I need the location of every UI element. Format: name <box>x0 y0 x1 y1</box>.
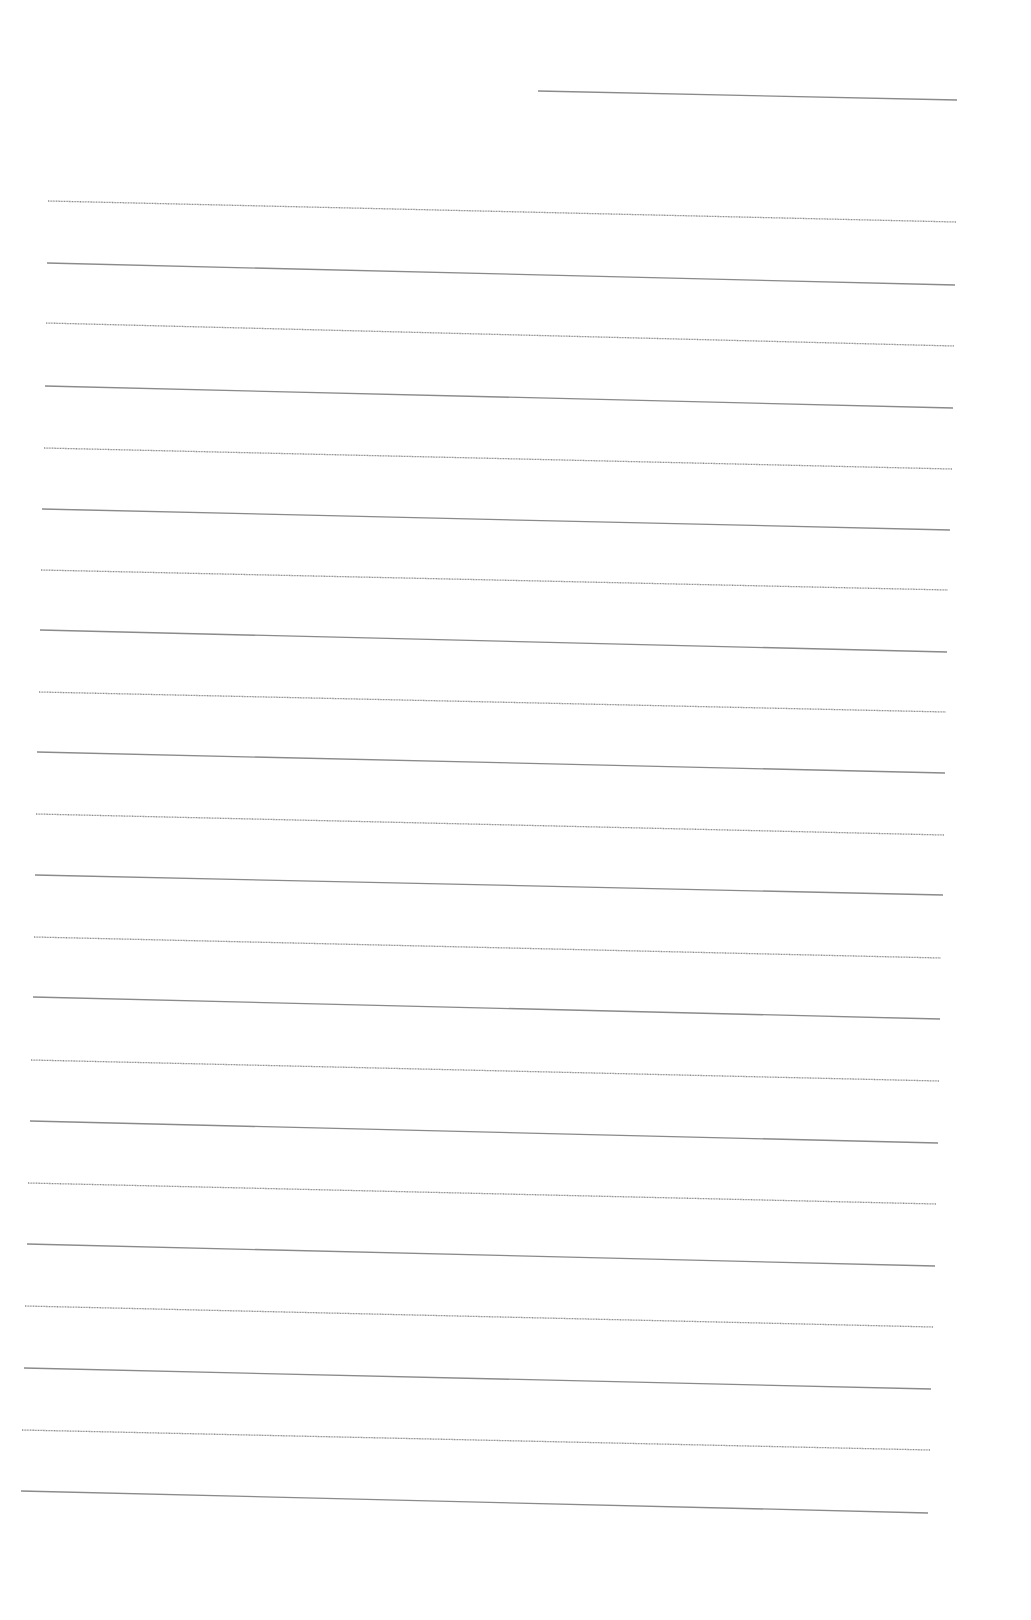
date-line <box>538 91 957 100</box>
ruled-line <box>40 630 947 652</box>
ruled-line <box>24 1368 931 1389</box>
ruled-line <box>39 692 946 712</box>
ruled-line <box>46 323 954 346</box>
ruled-line <box>48 201 956 222</box>
ruled-line <box>37 752 945 773</box>
ruled-line <box>35 875 943 895</box>
ruled-line <box>31 1060 939 1081</box>
ruled-line <box>42 509 950 530</box>
ruled-line <box>44 448 952 469</box>
notepaper-sheet <box>0 0 1031 1620</box>
ruled-line <box>34 937 941 958</box>
ruled-line <box>36 814 944 835</box>
ruled-line <box>30 1121 938 1143</box>
ruled-line <box>28 1183 936 1204</box>
ruled-line <box>21 1491 928 1513</box>
ruled-line <box>22 1430 930 1450</box>
ruled-line <box>33 997 940 1019</box>
ruled-line <box>41 570 948 590</box>
ruled-line <box>45 386 953 408</box>
ruled-line <box>47 263 955 285</box>
ruled-line <box>25 1306 933 1327</box>
ruled-line <box>27 1244 935 1266</box>
ruled-lines <box>0 0 1031 1620</box>
